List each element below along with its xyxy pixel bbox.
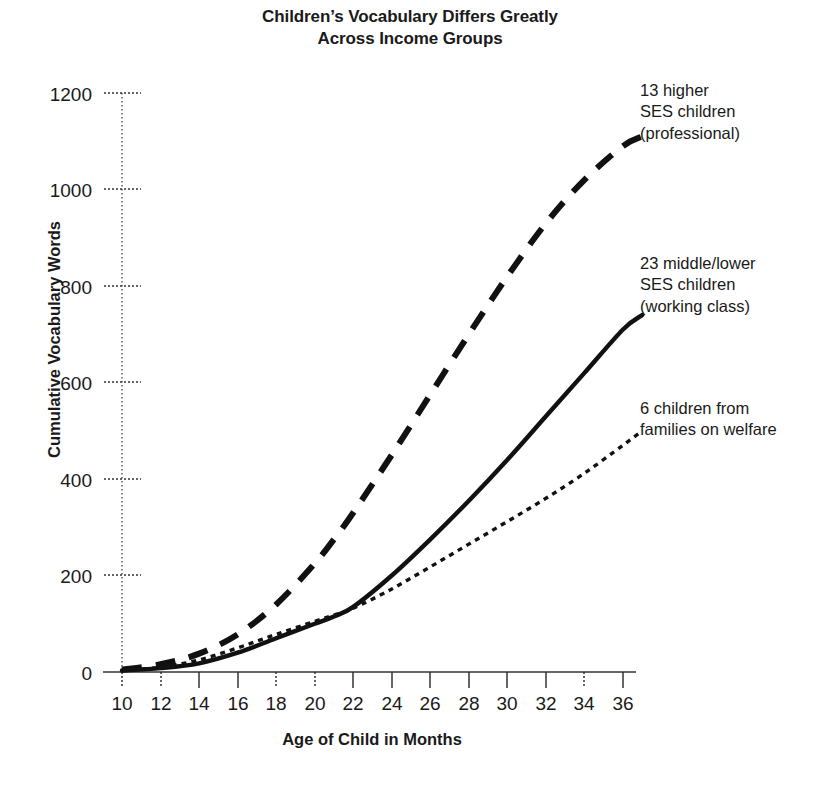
- x-tick-marks: [122, 672, 623, 688]
- annotation-working-class: 23 middle/lower SES children (working cl…: [640, 253, 756, 317]
- annotation-professional: 13 higher SES children (professional): [640, 80, 740, 144]
- vocabulary-growth-chart: Children’s Vocabulary Differs Greatly Ac…: [0, 0, 819, 787]
- series-line-professional: [122, 136, 642, 669]
- series-line-working-class: [122, 315, 642, 671]
- annotation-welfare: 6 children from families on welfare: [640, 398, 777, 441]
